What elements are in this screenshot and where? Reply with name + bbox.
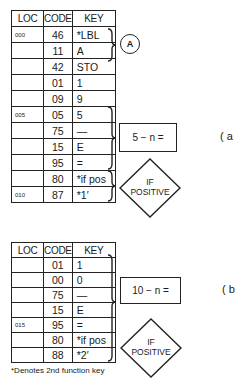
code-cell: 01 — [44, 258, 73, 273]
loc-cell — [12, 91, 44, 107]
part-label-a: ( a — [220, 130, 233, 142]
table-row: 95= — [12, 155, 116, 171]
loc-cell — [12, 139, 44, 155]
table-row: 75— — [12, 123, 116, 139]
table-row: 011 — [12, 75, 116, 91]
brace-icon — [107, 254, 117, 362]
loc-cell — [12, 273, 44, 288]
key-cell: 9 — [72, 91, 115, 107]
code-cell: 75 — [44, 288, 73, 303]
operation-box-b: 10 − n = — [120, 277, 181, 304]
code-cell: 00 — [44, 273, 73, 288]
brace-icon — [107, 28, 117, 62]
loc-cell — [12, 288, 44, 303]
loc-cell: 000 — [12, 27, 44, 43]
operation-box-a: 5 − n = — [119, 123, 177, 152]
part-label-b: ( b — [222, 283, 235, 295]
header-loc: LOC — [12, 243, 44, 258]
table-header-row: LOC CODE KEY — [12, 243, 116, 258]
diamond-label-line2: POSITIVE — [119, 187, 181, 197]
table-row: 15E — [12, 139, 116, 155]
code-cell: 95 — [44, 155, 73, 171]
code-cell: 87 — [44, 187, 73, 203]
code-cell: 80 — [44, 171, 73, 187]
code-cell: 80 — [44, 333, 73, 348]
loc-cell: 010 — [12, 187, 44, 203]
key-cell: 1 — [72, 75, 115, 91]
code-cell: 15 — [44, 303, 73, 318]
header-code: CODE — [44, 11, 73, 27]
code-cell: 95 — [44, 318, 73, 333]
brace-icon — [107, 170, 117, 202]
table-row: 75— — [12, 288, 116, 303]
decision-diamond-a: IF POSITIVE — [119, 158, 181, 218]
code-cell: 75 — [44, 123, 73, 139]
diamond-label-line2: POSITIVE — [120, 347, 182, 357]
loc-cell — [12, 155, 44, 171]
table-row: 80*if pos — [12, 333, 116, 348]
table-row: 01595= — [12, 318, 116, 333]
footnote: *Denotes 2nd function key — [11, 366, 104, 375]
table-row: 01087*1′ — [12, 187, 116, 203]
code-cell: 15 — [44, 139, 73, 155]
table-row: 000 — [12, 273, 116, 288]
header-loc: LOC — [12, 11, 44, 27]
diamond-label-line1: IF — [120, 337, 182, 347]
diamond-label-line1: IF — [119, 177, 181, 187]
table-row: 42STO — [12, 59, 116, 75]
table-row: 005055 — [12, 107, 116, 123]
code-cell: 11 — [44, 43, 73, 59]
loc-cell — [12, 43, 44, 59]
header-code: CODE — [44, 243, 73, 258]
code-cell: 01 — [44, 75, 73, 91]
loc-cell — [12, 59, 44, 75]
code-cell: 05 — [44, 107, 73, 123]
table-row: 011 — [12, 258, 116, 273]
loc-cell — [12, 258, 44, 273]
label-a-circle: A — [120, 34, 140, 54]
loc-cell: 015 — [12, 318, 44, 333]
loc-cell — [12, 348, 44, 363]
table-row: 099 — [12, 91, 116, 107]
loc-cell — [12, 303, 44, 318]
table-header-row: LOC CODE KEY — [12, 11, 116, 27]
brace-icon — [107, 106, 117, 170]
program-table-b: LOC CODE KEY 011 000 75— 15E 01595= 80*i… — [11, 242, 116, 363]
code-cell: 42 — [44, 59, 73, 75]
loc-cell: 005 — [12, 107, 44, 123]
loc-cell — [12, 75, 44, 91]
program-table-a: LOC CODE KEY 00046*LBL 11A 42STO 011 099… — [11, 10, 116, 203]
loc-cell — [12, 171, 44, 187]
table-row: 00046*LBL — [12, 27, 116, 43]
loc-cell — [12, 333, 44, 348]
code-cell: 88 — [44, 348, 73, 363]
table-row: 11A — [12, 43, 116, 59]
table-row: 15E — [12, 303, 116, 318]
header-key: KEY — [72, 11, 115, 27]
loc-cell — [12, 123, 44, 139]
code-cell: 46 — [44, 27, 73, 43]
code-cell: 09 — [44, 91, 73, 107]
table-row: 88*2′ — [12, 348, 116, 363]
decision-diamond-b: IF POSITIVE — [120, 318, 182, 378]
table-row: 80*if pos — [12, 171, 116, 187]
